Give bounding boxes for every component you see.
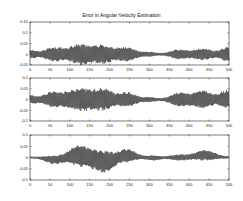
panel-2: 050100150200250300350400450500-0.1-0.050…	[19, 75, 233, 127]
x-tick-label: 450	[206, 182, 213, 187]
x-tick-label: 100	[66, 123, 73, 128]
x-tick-label: 250	[126, 182, 133, 187]
x-tick-label: 300	[146, 123, 153, 128]
x-tick-label: 50	[48, 182, 53, 187]
y-tick-label: 0.1	[22, 30, 28, 35]
x-tick-label: 350	[166, 123, 173, 128]
x-tick-label: 450	[206, 67, 213, 72]
x-tick-label: 150	[86, 182, 93, 187]
x-tick-label: 500	[226, 182, 233, 187]
x-tick-label: 200	[106, 67, 113, 72]
x-tick-label: 250	[126, 67, 133, 72]
x-tick-label: 50	[48, 123, 53, 128]
y-tick-label: 0	[26, 97, 29, 102]
y-tick-label: -0.05	[19, 166, 29, 171]
y-tick-label: -0.05	[19, 62, 29, 67]
x-tick-label: 350	[166, 182, 173, 187]
y-tick-label: 0.1	[22, 132, 28, 137]
y-tick-label: 0.1	[22, 75, 28, 80]
x-tick-label: 400	[186, 67, 193, 72]
y-tick-label: 0.05	[20, 144, 29, 149]
x-tick-label: 0	[29, 182, 32, 187]
x-tick-label: 450	[206, 123, 213, 128]
panel-3: 050100150200250300350400450500-0.1-0.050…	[19, 132, 233, 186]
y-tick-label: 0.05	[20, 41, 29, 46]
x-tick-label: 100	[66, 67, 73, 72]
x-tick-label: 400	[186, 123, 193, 128]
y-tick-label: 0.05	[20, 86, 29, 91]
x-tick-label: 200	[106, 182, 113, 187]
x-tick-label: 150	[86, 123, 93, 128]
panel-1: 050100150200250300350400450500-0.0500.05…	[19, 19, 233, 71]
y-tick-label: 0.15	[20, 19, 29, 24]
error-signal-line	[30, 146, 229, 173]
x-tick-label: 250	[126, 123, 133, 128]
y-tick-label: 0	[26, 52, 29, 57]
x-tick-label: 150	[86, 67, 93, 72]
x-tick-label: 400	[186, 182, 193, 187]
x-tick-label: 200	[106, 123, 113, 128]
x-tick-label: 0	[29, 123, 32, 128]
error-signal-line	[30, 88, 229, 111]
y-tick-label: -0.1	[21, 177, 29, 182]
figure-canvas: 050100150200250300350400450500-0.0500.05…	[0, 0, 243, 201]
x-tick-label: 350	[166, 67, 173, 72]
x-tick-label: 500	[226, 123, 233, 128]
x-tick-label: 300	[146, 182, 153, 187]
y-tick-label: -0.1	[21, 118, 29, 123]
x-tick-label: 50	[48, 67, 53, 72]
x-tick-label: 300	[146, 67, 153, 72]
x-tick-label: 100	[66, 182, 73, 187]
x-tick-label: 0	[29, 67, 32, 72]
x-tick-label: 500	[226, 67, 233, 72]
y-tick-label: -0.05	[19, 108, 29, 113]
y-tick-label: 0	[26, 155, 29, 160]
error-signal-line	[30, 44, 229, 65]
